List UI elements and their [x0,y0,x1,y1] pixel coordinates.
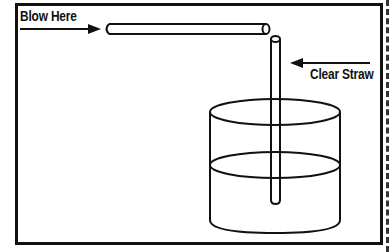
clear-straw-label: Clear Straw [310,66,374,82]
blow-here-label: Blow Here [20,8,77,24]
straw-experiment-diagram [0,0,392,252]
cup-of-water [210,99,340,233]
blow-here-arrow-icon [20,24,101,34]
horizontal-straw [107,24,270,34]
